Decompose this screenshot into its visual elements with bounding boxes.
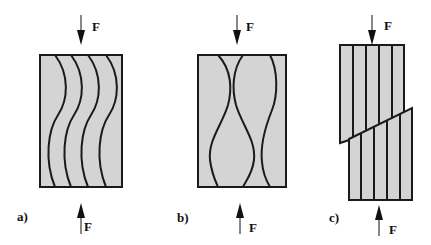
compression-failure-diagram: F F a) F F b) [0, 0, 431, 245]
panel-a: F F a) [17, 15, 122, 234]
force-label-top: F [384, 18, 392, 33]
panel-label: c) [329, 210, 339, 225]
panel-c: F F c) [329, 15, 412, 237]
arrow-down-icon [233, 30, 241, 45]
force-label-top: F [246, 19, 254, 34]
arrow-down-icon [77, 30, 85, 45]
panel-label: a) [17, 209, 28, 224]
panel-label: b) [177, 210, 189, 225]
force-label-bottom: F [389, 222, 397, 237]
force-label-top: F [92, 19, 100, 34]
panel-b: F F b) [177, 15, 286, 235]
arrow-down-icon [368, 30, 376, 45]
force-label-bottom: F [249, 220, 257, 235]
force-label-bottom: F [84, 219, 92, 234]
